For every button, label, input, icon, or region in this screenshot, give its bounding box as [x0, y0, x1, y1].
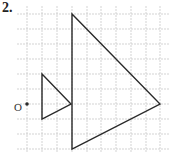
grid-figure [0, 0, 169, 153]
grid-lines [17, 6, 169, 153]
origin-label: O [14, 101, 22, 113]
origin-point [25, 102, 29, 106]
small-triangle [42, 74, 71, 119]
